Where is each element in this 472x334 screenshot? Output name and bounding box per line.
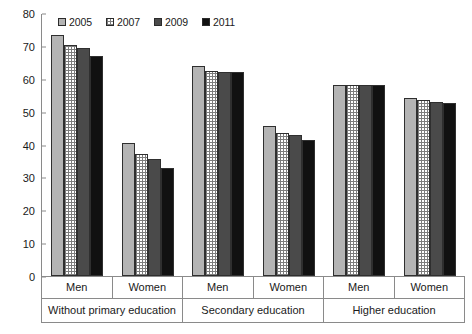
- x-axis-subgroup-row: MenWomenMenWomenMenWomen: [42, 277, 464, 299]
- bar-2005: [122, 143, 135, 276]
- plot-area: 01020304050607080: [41, 14, 465, 277]
- bar-subgroup: [395, 14, 466, 276]
- bar-subgroup: [254, 14, 325, 276]
- bar-2005: [51, 35, 64, 276]
- bar-2007: [64, 45, 77, 276]
- bar-2007: [135, 154, 148, 276]
- bar-2009: [359, 85, 372, 276]
- bar-2011: [443, 103, 456, 276]
- bar-groups: [42, 14, 465, 276]
- y-axis-tick-label: 50: [23, 107, 42, 119]
- x-axis-labels: MenWomenMenWomenMenWomen Without primary…: [41, 277, 465, 323]
- x-axis-group-label: Higher education: [324, 299, 464, 323]
- bar-2009: [430, 102, 443, 276]
- bar-2005: [263, 126, 276, 276]
- x-axis-subgroup-label: Men: [324, 277, 395, 299]
- y-axis-tick-label: 30: [23, 172, 42, 184]
- x-axis-subgroup-label: Women: [395, 277, 465, 299]
- bar-subgroup: [42, 14, 113, 276]
- bar-2007: [417, 100, 430, 276]
- bar-2007: [205, 71, 218, 276]
- bar-2011: [372, 85, 385, 276]
- bar-2005: [404, 98, 417, 276]
- bar-2011: [231, 72, 244, 276]
- bar-subgroup: [183, 14, 254, 276]
- bar-2007: [346, 85, 359, 276]
- bar-subgroup: [113, 14, 184, 276]
- bar-chart: 2005 2007 2009 2011 01020304050607080 Me…: [0, 0, 472, 334]
- x-axis-subgroup-label: Men: [42, 277, 113, 299]
- bar-2007: [276, 133, 289, 276]
- y-axis-tick-label: 20: [23, 205, 42, 217]
- bar-2011: [90, 56, 103, 276]
- x-axis-group-label: Secondary education: [183, 299, 324, 323]
- bar-2011: [302, 140, 315, 276]
- x-axis-group-label: Without primary education: [42, 299, 183, 323]
- y-axis-tick-label: 70: [23, 41, 42, 53]
- y-axis-tick-label: 60: [23, 74, 42, 86]
- bar-2009: [77, 48, 90, 276]
- bar-2009: [148, 159, 161, 276]
- y-axis-tick-label: 10: [23, 238, 42, 250]
- bar-2005: [333, 85, 346, 276]
- bar-2009: [289, 135, 302, 276]
- y-axis-tick-label: 80: [23, 8, 42, 20]
- bar-2011: [161, 168, 174, 276]
- x-axis-subgroup-label: Men: [183, 277, 254, 299]
- x-axis-subgroup-label: Women: [113, 277, 184, 299]
- bar-2009: [218, 72, 231, 276]
- y-axis-tick-label: 40: [23, 140, 42, 152]
- bar-subgroup: [324, 14, 395, 276]
- x-axis-subgroup-label: Women: [254, 277, 325, 299]
- x-axis-group-row: Without primary educationSecondary educa…: [42, 299, 464, 323]
- bar-2005: [192, 66, 205, 276]
